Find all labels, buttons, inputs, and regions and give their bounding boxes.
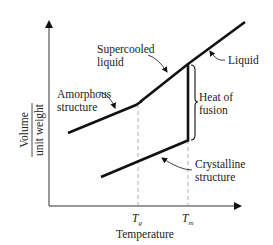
heat-of-fusion-label-line2: fusion <box>199 104 228 116</box>
amorphous-label-line2: structure <box>57 101 97 113</box>
y-axis-numerator: Volume <box>18 112 30 148</box>
amorphous-label-line1: Amorphous <box>57 88 112 101</box>
x-axis-title: Temperature <box>116 228 174 241</box>
liquid-label: Liquid <box>228 54 259 67</box>
tm-tick-label: Tm <box>182 212 193 227</box>
heat-of-fusion-brace <box>191 65 198 140</box>
supercooled-label-line2: liquid <box>97 56 124 69</box>
y-axis-title: Volume unit weight <box>18 103 46 157</box>
crystalline-label-line1: Crystalline <box>195 158 245 171</box>
crystalline-curve <box>101 140 189 177</box>
crystalline-label-line2: structure <box>195 171 235 183</box>
volume-temperature-diagram: Supercooled liquid Liquid Amorphous stru… <box>0 0 273 245</box>
liquid-leader <box>210 51 225 60</box>
crystalline-leader <box>162 158 192 170</box>
tg-tick-label: Tg <box>132 212 142 227</box>
y-axis-denominator: unit weight <box>33 103 46 156</box>
supercooled-leader <box>148 55 167 72</box>
heat-of-fusion-label-line1: Heat of <box>199 91 233 103</box>
supercooled-label-line1: Supercooled <box>97 43 155 56</box>
